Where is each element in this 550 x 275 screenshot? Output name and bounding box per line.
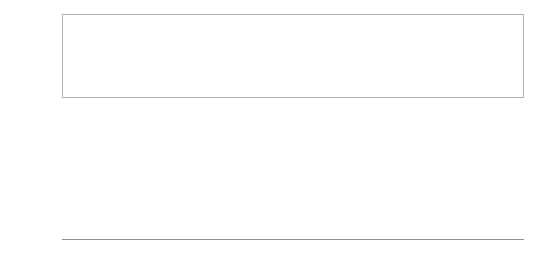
chart-root [0,0,550,275]
xaxis-ticks [62,241,524,253]
yield-line-panel [62,14,524,98]
mechanization-bar-panel [62,104,524,182]
milk-output-bar-panel [62,182,524,240]
yield-line-series [63,15,523,97]
